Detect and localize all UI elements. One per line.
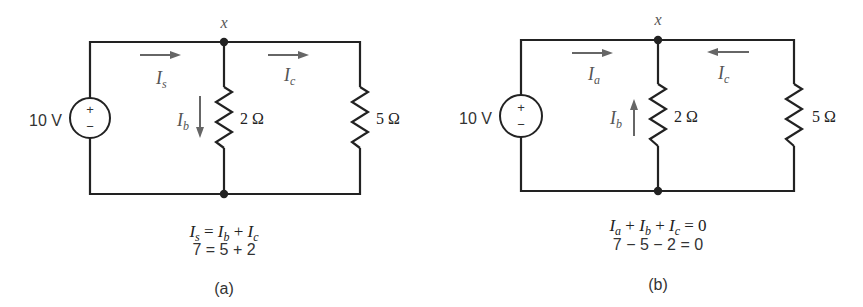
equation-symbolic-b: Ia + Ib + Ic = 0 [608, 216, 706, 238]
current-label-Ic-b: Ic [717, 63, 730, 86]
arrow-up-icon [630, 99, 638, 136]
resistor-label-5ohm-a: 5 Ω [376, 110, 400, 127]
resistor-2ohm-b [650, 84, 666, 146]
resistor-label-2ohm-a: 2 Ω [240, 110, 264, 127]
plus-sign: + [86, 102, 94, 117]
voltage-source-b: + − [500, 95, 542, 137]
circuit-b: + − 10 V 2 Ω 5 Ω x Ia Ib Ic Ia + Ib + Ic… [459, 11, 836, 293]
node-bottom-a [220, 190, 228, 198]
resistor-2ohm-a [216, 87, 232, 148]
node-x-b [654, 36, 662, 44]
source-label-a: 10 V [29, 112, 62, 129]
arrow-right-icon [140, 51, 181, 59]
current-label-Is: Is [155, 68, 167, 91]
caption-b: (b) [648, 276, 668, 293]
current-label-Ic-a: Ic [283, 65, 296, 88]
circuit-a: + − 10 V 2 Ω 5 Ω x Is Ib Ic I [29, 14, 400, 297]
current-label-Ib-b: Ib [609, 108, 622, 131]
arrow-right-icon [268, 51, 309, 59]
minus-sign: − [86, 119, 94, 134]
minus-sign: − [517, 117, 525, 132]
caption-a: (a) [214, 280, 234, 297]
equation-numeric-a: 7 = 5 + 2 [192, 241, 255, 258]
node-label-b: x [653, 11, 661, 28]
equation-numeric-b: 7 − 5 − 2 = 0 [613, 236, 703, 253]
node-x-a [220, 38, 228, 46]
plus-sign: + [517, 100, 525, 115]
current-label-Ib-a: Ib [176, 110, 189, 133]
node-label-a: x [219, 14, 227, 31]
node-bottom-b [654, 187, 662, 195]
resistor-label-5ohm-b: 5 Ω [812, 108, 836, 125]
resistor-label-2ohm-b: 2 Ω [674, 108, 698, 125]
resistor-5ohm-a [352, 87, 368, 148]
arrow-right-icon [572, 49, 613, 57]
voltage-source-a: + − [70, 98, 110, 138]
resistor-5ohm-b [786, 84, 802, 146]
current-label-Ia: Ia [587, 64, 600, 87]
source-label-b: 10 V [459, 110, 492, 127]
kcl-figure: + − 10 V 2 Ω 5 Ω x Is Ib Ic I [0, 0, 863, 307]
arrow-left-icon [707, 48, 749, 56]
arrow-down-icon [196, 96, 204, 138]
